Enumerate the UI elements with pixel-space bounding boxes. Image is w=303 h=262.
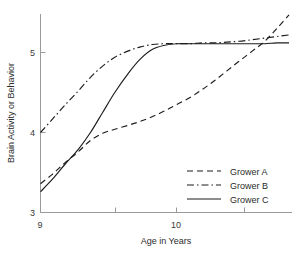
x-axis-ticks: 9 10 xyxy=(37,208,244,231)
y-axis-title: Brain Activity or Behavior xyxy=(6,63,16,163)
chart-figure: 3 4 5 9 10 Age in Years Brain Activity o… xyxy=(0,0,303,262)
legend-label-grower-c: Grower C xyxy=(230,195,269,205)
y-tick-label-3: 3 xyxy=(30,208,35,218)
series-line-grower-a xyxy=(41,15,290,184)
line-chart-canvas: 3 4 5 9 10 Age in Years Brain Activity o… xyxy=(0,0,303,262)
x-tick-label-10: 10 xyxy=(171,220,181,230)
x-tick-label-9: 9 xyxy=(37,220,42,230)
legend-label-grower-a: Grower A xyxy=(230,167,268,177)
y-tick-label-5: 5 xyxy=(30,48,35,58)
x-axis-title: Age in Years xyxy=(141,236,192,246)
y-tick-label-4: 4 xyxy=(30,128,35,138)
y-axis-ticks: 3 4 5 xyxy=(30,48,46,218)
data-series-group xyxy=(41,15,290,192)
series-line-grower-b xyxy=(41,35,290,133)
chart-legend: Grower A Grower B Grower C xyxy=(187,167,269,205)
legend-label-grower-b: Grower B xyxy=(230,181,268,191)
